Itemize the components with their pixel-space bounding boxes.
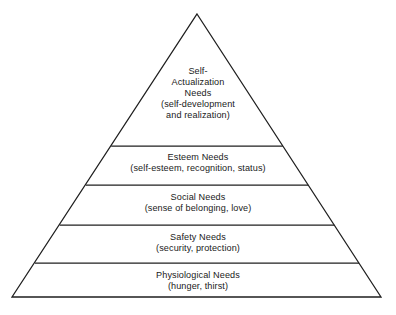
tier-subtitle-physiological: (hunger, thirst) (0, 281, 396, 292)
tier-title-safety: Safety Needs (0, 232, 396, 243)
tier-label-social: Social Needs (sense of belonging, love) (0, 192, 396, 214)
tier-subtitle-esteem: (self-esteem, recognition, status) (0, 163, 396, 174)
tier-title-social: Social Needs (0, 192, 396, 203)
tier-title-line-actualization: Actualization (0, 77, 396, 88)
tier-subtitle-safety: (security, protection) (0, 243, 396, 254)
tier-title-line-needs: Needs (0, 88, 396, 99)
tier-title-line-self: Self- (0, 66, 396, 77)
tier-title-esteem: Esteem Needs (0, 152, 396, 163)
tier-subtitle-social: (sense of belonging, love) (0, 203, 396, 214)
tier-label-physiological: Physiological Needs (hunger, thirst) (0, 270, 396, 292)
tier-label-self-actualization: Self- Actualization Needs (self-developm… (0, 66, 396, 121)
tier-label-esteem: Esteem Needs (self-esteem, recognition, … (0, 152, 396, 174)
tier-label-safety: Safety Needs (security, protection) (0, 232, 396, 254)
maslow-pyramid-diagram: Self- Actualization Needs (self-developm… (0, 0, 396, 315)
tier-subtitle-line-self-development: (self-development (0, 99, 396, 110)
tier-subtitle-line-and-realization: and realization) (0, 110, 396, 121)
tier-title-physiological: Physiological Needs (0, 270, 396, 281)
